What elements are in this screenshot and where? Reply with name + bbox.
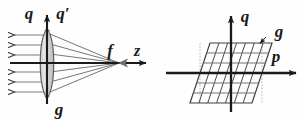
label-p: p bbox=[270, 47, 281, 66]
label-g-right: g bbox=[274, 22, 284, 41]
figure-canvas: q q′ f z g bbox=[0, 0, 305, 122]
label-q-prime: q′ bbox=[56, 4, 69, 23]
phase-space-grid: q p g bbox=[166, 7, 296, 112]
label-z: z bbox=[133, 42, 141, 59]
lens-ray-diagram: q q′ f z g bbox=[10, 4, 146, 119]
label-f: f bbox=[107, 41, 115, 60]
label-q-right: q bbox=[241, 7, 250, 26]
converging-ray bbox=[50, 63, 119, 82]
optics-figure: q q′ f z g bbox=[0, 0, 305, 122]
label-q: q bbox=[25, 4, 34, 23]
label-g-left: g bbox=[54, 100, 64, 119]
